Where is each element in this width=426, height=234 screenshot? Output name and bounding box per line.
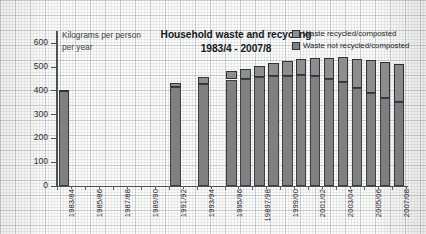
y-axis-tick [51, 90, 56, 91]
bar-segment-not-recycled [310, 76, 320, 185]
y-axis-tick-label: 400 [20, 86, 48, 94]
y-axis-tick-label: 300 [20, 110, 48, 118]
bar-segment-not-recycled [394, 102, 404, 185]
bar-segment-not-recycled [198, 84, 208, 186]
y-axis-tick [51, 67, 56, 68]
y-axis-tick-label: 0 [20, 181, 48, 189]
chart-legend: Waste recycled/composted Waste not recyc… [292, 28, 409, 52]
bar-segment-not-recycled [282, 76, 292, 186]
x-axis-label: 1983/84 [67, 189, 76, 217]
x-axis-label: 1995/96 [235, 189, 244, 217]
bar-segment-not-recycled [268, 76, 278, 186]
bar-segment-recycled [254, 66, 264, 77]
bar-segment-not-recycled [366, 93, 376, 185]
bar-segment-recycled [394, 64, 404, 103]
x-axis-label: 2005/06 [374, 189, 383, 217]
bar-segment-not-recycled [380, 98, 390, 185]
x-axis-label: 1985/86 [95, 189, 104, 217]
x-axis-label: 1999/00 [291, 189, 300, 217]
bar-segment-not-recycled [226, 80, 236, 186]
bar-segment-recycled [59, 90, 69, 92]
bar-1983-84 [59, 90, 69, 186]
bar-segment-not-recycled [338, 82, 348, 186]
bar-segment-not-recycled [59, 91, 69, 185]
bar-segment-recycled [324, 58, 334, 79]
y-axis-tick [51, 43, 56, 44]
bar-2000-01 [296, 59, 306, 185]
x-axis-line [56, 186, 408, 188]
y-axis-tick [51, 114, 56, 115]
bar-segment-recycled [170, 83, 180, 87]
legend-swatch-not-recycled [292, 42, 300, 50]
legend-item-not-recycled: Waste not recycled/composted [292, 40, 409, 51]
x-axis-tick [280, 186, 281, 190]
y-axis-tick [51, 162, 56, 163]
legend-swatch-recycled [292, 30, 300, 38]
legend-label-recycled: Waste recycled/composted [303, 29, 396, 38]
bar-segment-not-recycled [240, 79, 250, 186]
chart-plot-area: 0100200300400500600 1983/841985/861987/8… [0, 0, 426, 234]
y-axis-tick-label: 100 [20, 157, 48, 165]
y-axis-unit-line2: per year [62, 42, 148, 54]
x-axis-label: 19897/98 [263, 189, 272, 221]
x-axis-tick [225, 186, 226, 190]
legend-label-not-recycled: Waste not recycled/composted [303, 41, 409, 50]
bar-2001-02 [310, 58, 320, 186]
bar-1996-97 [240, 69, 250, 186]
bar-1998-99 [268, 63, 278, 185]
y-axis-tick [51, 186, 56, 187]
x-axis-tick [85, 186, 86, 190]
bar-segment-recycled [296, 59, 306, 75]
x-axis-tick [364, 186, 365, 190]
y-axis-tick-label: 500 [20, 62, 48, 70]
bar-segment-recycled [268, 63, 278, 76]
x-axis-label: 1993/94 [207, 189, 216, 217]
y-axis-line [56, 31, 58, 186]
x-axis-label: 1987/88 [123, 189, 132, 217]
x-axis-label: 1989/90 [151, 189, 160, 217]
y-axis-tick [51, 138, 56, 139]
x-axis-tick [113, 186, 114, 190]
x-axis-tick [197, 186, 198, 190]
bar-segment-recycled [282, 61, 292, 75]
x-axis-tick [252, 186, 253, 190]
bar-segment-not-recycled [296, 75, 306, 185]
bar-segment-not-recycled [352, 88, 362, 186]
x-axis-label: 2001/02 [318, 189, 327, 217]
bar-2004-05 [352, 59, 362, 185]
bar-segment-recycled [338, 57, 348, 81]
bar-1991-92 [170, 83, 180, 185]
bar-segment-recycled [310, 58, 320, 77]
x-axis-tick [308, 186, 309, 190]
bar-1995-96 [226, 71, 236, 186]
bar-segment-recycled [240, 69, 250, 79]
bar-2005-06 [366, 60, 376, 185]
x-axis-tick [141, 186, 142, 190]
x-axis-tick [336, 186, 337, 190]
bar-segment-recycled [226, 71, 236, 80]
bar-segment-recycled [352, 59, 362, 88]
bar-1997-98 [254, 66, 264, 186]
bar-segment-not-recycled [170, 87, 180, 185]
y-axis-tick-label: 600 [20, 38, 48, 46]
y-axis-unit-note: Kilograms per person per year [62, 30, 148, 53]
x-axis-label: 2003/04 [346, 189, 355, 217]
x-axis-tick [57, 186, 58, 190]
bar-1993-94 [198, 77, 208, 185]
x-axis-label: 1991/92 [179, 189, 188, 217]
bar-2007-08 [394, 64, 404, 186]
bar-segment-not-recycled [324, 79, 334, 185]
bar-segment-recycled [198, 77, 208, 83]
x-axis-label: 2007/08 [402, 189, 411, 217]
bar-2002-03 [324, 58, 334, 185]
legend-item-recycled: Waste recycled/composted [292, 28, 409, 39]
bar-segment-recycled [366, 60, 376, 93]
bar-segment-not-recycled [254, 77, 264, 185]
bar-2006-07 [380, 62, 390, 185]
y-axis-tick-label: 200 [20, 133, 48, 141]
x-axis-tick [392, 186, 393, 190]
bar-1999-00 [282, 61, 292, 185]
bar-2003-04 [338, 57, 348, 185]
bar-segment-recycled [380, 62, 390, 98]
x-axis-tick [169, 186, 170, 190]
